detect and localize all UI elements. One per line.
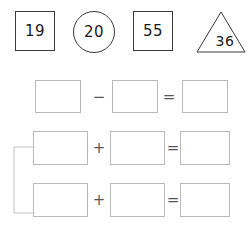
equation-row-1-operand-a-box[interactable]: [35, 80, 81, 113]
grouping-bracket-icon: [13, 146, 35, 214]
number-shape-square-19: 19: [15, 11, 55, 51]
number-value-20: 20: [84, 25, 104, 40]
worksheet-page: 19 20 55 36 − = + = + =: [0, 0, 251, 231]
number-shape-triangle-36: 36: [196, 11, 246, 53]
equation-row-2-operand-a-box[interactable]: [33, 131, 88, 165]
equation-row-3-result-box[interactable]: [180, 183, 230, 217]
number-shape-circle-20: 20: [73, 11, 115, 53]
equation-row-2-operand-b-box[interactable]: [110, 131, 165, 165]
equals-sign-row-1: =: [159, 89, 179, 105]
grouping-bracket: [13, 146, 35, 214]
equation-row-2-result-box[interactable]: [180, 131, 230, 165]
equation-row-1-result-box[interactable]: [182, 80, 228, 113]
number-value-36: 36: [216, 34, 235, 48]
plus-operator-row-2: +: [90, 140, 108, 156]
equation-row-3-operand-a-box[interactable]: [33, 183, 88, 217]
number-shape-square-55: 55: [133, 11, 173, 51]
minus-operator-row-1: −: [89, 89, 109, 105]
plus-operator-row-3: +: [90, 192, 108, 208]
number-value-19: 19: [25, 24, 45, 39]
equation-row-1-operand-b-box[interactable]: [112, 80, 158, 113]
number-value-55: 55: [143, 24, 163, 39]
equation-row-3-operand-b-box[interactable]: [110, 183, 165, 217]
